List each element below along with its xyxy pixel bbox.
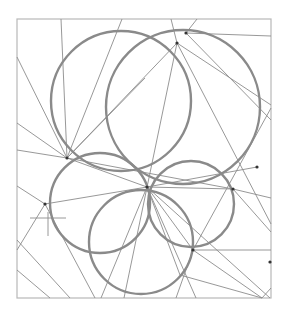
point-A bbox=[175, 41, 178, 44]
construction-line bbox=[17, 270, 50, 298]
circle-c4 bbox=[148, 161, 234, 247]
construction-line bbox=[17, 57, 67, 158]
point-E bbox=[231, 187, 234, 190]
point-H bbox=[268, 260, 271, 263]
construction-line bbox=[233, 189, 271, 232]
construction-line bbox=[17, 123, 67, 158]
construction-line bbox=[17, 204, 45, 250]
construction-lines bbox=[17, 19, 271, 298]
construction-line bbox=[193, 108, 271, 250]
construction-line bbox=[67, 158, 147, 187]
construction-line bbox=[67, 19, 122, 158]
construction-line bbox=[147, 187, 233, 189]
construction-figure bbox=[0, 0, 287, 318]
point-I bbox=[255, 165, 258, 168]
construction-line bbox=[193, 250, 262, 298]
point-F bbox=[191, 248, 194, 251]
point-B bbox=[145, 185, 148, 188]
construction-line bbox=[17, 186, 45, 204]
construction-circles bbox=[50, 30, 260, 294]
drawing-frame bbox=[17, 19, 271, 298]
point-C bbox=[65, 156, 68, 159]
construction-line bbox=[233, 189, 271, 198]
construction-line bbox=[17, 240, 70, 298]
construction-line bbox=[262, 288, 271, 298]
geometry-drawing bbox=[0, 0, 287, 318]
point-D bbox=[43, 202, 46, 205]
point-G bbox=[184, 31, 187, 34]
construction-line bbox=[147, 187, 180, 275]
construction-line bbox=[180, 275, 262, 298]
construction-line bbox=[17, 150, 67, 158]
construction-line bbox=[45, 187, 147, 204]
circle-c5 bbox=[89, 190, 193, 294]
construction-line bbox=[186, 33, 271, 36]
